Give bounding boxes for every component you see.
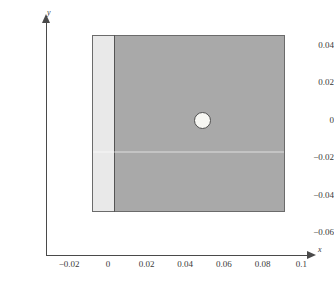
hole-circle-shape xyxy=(194,112,211,129)
x-axis-label: x xyxy=(318,246,322,254)
y-tick-label: −0.02 xyxy=(292,153,334,162)
x-tick-label: 0.02 xyxy=(126,260,168,269)
y-tick-label: −0.06 xyxy=(292,228,334,237)
x-tick-label: 0 xyxy=(87,260,129,269)
y-axis-label: y xyxy=(47,9,51,17)
geometry-layer xyxy=(0,0,334,284)
y-tick-label: 0.04 xyxy=(292,40,334,49)
x-tick-label: 0.08 xyxy=(242,260,284,269)
interface-line xyxy=(114,35,115,212)
x-tick-label: 0.06 xyxy=(203,260,245,269)
x-axis-line xyxy=(46,255,309,256)
x-tick-label: −0.02 xyxy=(48,260,90,269)
x-tick-label: 0.04 xyxy=(164,260,206,269)
coating-strip-shape xyxy=(92,35,115,212)
y-tick-label: 0 xyxy=(292,115,334,124)
y-axis-line xyxy=(46,22,47,256)
y-tick-label: 0.02 xyxy=(292,78,334,87)
x-axis-arrow-icon xyxy=(307,251,316,259)
mesh-seam-line xyxy=(93,151,284,153)
x-tick-label: 0.1 xyxy=(280,260,322,269)
plot-figure: y x 0.040.020−0.02−0.04−0.06 −0.0200.020… xyxy=(0,0,334,284)
y-tick-label: −0.04 xyxy=(292,190,334,199)
